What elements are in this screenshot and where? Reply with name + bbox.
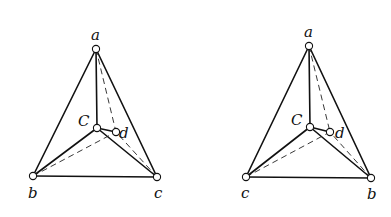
vertex-c xyxy=(242,173,249,180)
edge-b-C xyxy=(33,128,97,176)
label-b: b xyxy=(28,184,38,202)
label-C: C xyxy=(291,111,303,129)
dashed-edge-c-d xyxy=(246,132,330,177)
vertex-d xyxy=(326,128,333,135)
edge-c-b xyxy=(246,177,371,178)
vertex-c xyxy=(153,173,160,180)
label-a: a xyxy=(304,23,313,41)
label-c: c xyxy=(241,184,250,202)
dashed-edge-b-d xyxy=(33,132,116,176)
edge-a-C xyxy=(309,46,310,127)
label-d: d xyxy=(119,124,129,142)
label-b: b xyxy=(367,185,377,203)
label-C: C xyxy=(78,112,90,130)
label-a: a xyxy=(91,26,100,44)
edge-a-C xyxy=(96,49,97,128)
dashed-edge-a-d xyxy=(309,46,330,132)
left-figure: a C d b c xyxy=(28,26,163,202)
vertex-a xyxy=(92,45,99,52)
label-c: c xyxy=(154,184,163,202)
vertex-b xyxy=(29,172,36,179)
diagram-canvas: a C d b c a C d c b xyxy=(0,0,391,217)
vertex-C xyxy=(306,123,313,130)
edge-a-b xyxy=(309,46,371,178)
edge-a-c xyxy=(96,49,157,177)
label-d: d xyxy=(335,124,345,142)
edge-c-C xyxy=(246,127,310,177)
edge-b-c xyxy=(33,176,157,177)
vertex-a xyxy=(305,42,312,49)
dashed-edge-a-d xyxy=(96,49,116,132)
vertex-b xyxy=(367,174,374,181)
vertex-C xyxy=(93,124,100,131)
right-figure: a C d c b xyxy=(241,23,377,203)
